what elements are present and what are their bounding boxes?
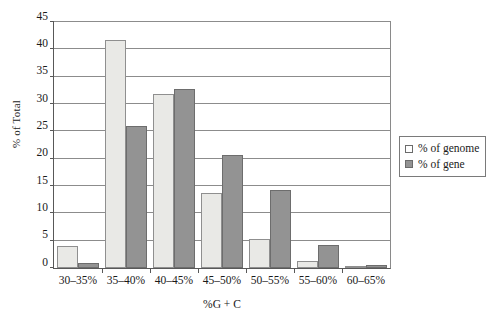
- bar: [57, 246, 78, 268]
- y-tick-label: 10: [37, 202, 49, 214]
- x-tick-label: 50–55%: [251, 275, 289, 287]
- bar-series-container: [54, 22, 390, 268]
- bar: [345, 266, 366, 268]
- y-tick-label: 45: [37, 11, 49, 23]
- bar: [318, 245, 339, 269]
- bar: [153, 94, 174, 268]
- bar: [78, 263, 99, 268]
- plot-area: 051015202530354045 30–35%35–40%40–45%45–…: [53, 21, 391, 269]
- y-tick-label: 35: [37, 65, 49, 77]
- legend-item: % of genome: [405, 141, 479, 157]
- legend-swatch-icon: [405, 160, 413, 168]
- y-tick-label: 15: [37, 175, 49, 187]
- bar-group: [54, 22, 102, 268]
- y-tick-label: 40: [37, 38, 49, 50]
- x-tick-label: 45–50%: [203, 275, 241, 287]
- x-tick-label: 35–40%: [107, 275, 145, 287]
- bar: [174, 89, 195, 268]
- bar-group: [342, 22, 390, 268]
- chart-legend: % of genome% of gene: [399, 136, 486, 177]
- x-tick-mark: [246, 268, 247, 273]
- bar-group: [294, 22, 342, 268]
- y-tick-label: 20: [37, 147, 49, 159]
- bar: [105, 40, 126, 269]
- y-tick-label: 5: [42, 229, 48, 241]
- bar: [201, 193, 222, 268]
- x-tick-mark: [342, 268, 343, 273]
- bar-chart-figure: % of Total 051015202530354045 30–35%35–4…: [0, 0, 495, 323]
- bar: [270, 190, 291, 268]
- bar: [126, 126, 147, 268]
- bar: [297, 261, 318, 268]
- y-tick-label: 0: [42, 257, 48, 269]
- x-tick-label: 30–35%: [59, 275, 97, 287]
- x-tick-mark: [150, 268, 151, 273]
- bar-group: [246, 22, 294, 268]
- x-tick-mark: [198, 268, 199, 273]
- bar-group: [102, 22, 150, 268]
- x-tick-label: 40–45%: [155, 275, 193, 287]
- x-axis-title: %G + C: [53, 298, 391, 310]
- x-tick-label: 55–60%: [299, 275, 337, 287]
- x-tick-mark: [294, 268, 295, 273]
- legend-item: % of gene: [405, 157, 479, 173]
- x-tick-label: 60–65%: [347, 275, 385, 287]
- bar: [366, 265, 387, 268]
- legend-item-label: % of gene: [418, 157, 465, 173]
- y-tick-label: 25: [37, 120, 49, 132]
- bar: [249, 239, 270, 268]
- bar-group: [150, 22, 198, 268]
- y-axis-title: % of Total: [10, 84, 22, 164]
- y-tick-label: 30: [37, 93, 49, 105]
- legend-swatch-icon: [405, 145, 413, 153]
- x-tick-mark: [102, 268, 103, 273]
- bar-group: [198, 22, 246, 268]
- legend-item-label: % of genome: [418, 141, 479, 157]
- bar: [222, 155, 243, 268]
